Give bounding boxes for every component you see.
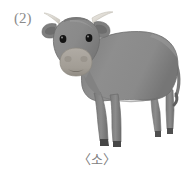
left-horn [44,13,60,24]
left-eye [60,35,67,43]
cow-illustration-svg [0,0,194,152]
right-eye-highlight [87,35,89,37]
page-root: (2) [0,0,194,175]
figure-caption: 〈소〉 [0,152,194,167]
cow-illustration [0,0,194,152]
right-eye [86,34,93,42]
left-nostril [64,56,71,62]
muzzle [60,48,92,76]
front-right-leg [110,94,121,147]
right-horn [92,12,113,23]
left-eye-highlight [61,36,63,38]
right-nostril [80,56,87,62]
